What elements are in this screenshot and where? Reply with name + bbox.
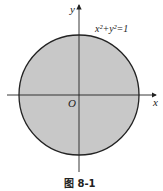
unit-circle-diagram: y x O x²+y²=1 图 8-1 bbox=[0, 0, 163, 191]
y-axis-label: y bbox=[69, 3, 75, 15]
equation-label: x²+y²=1 bbox=[94, 23, 128, 34]
origin-label: O bbox=[68, 97, 76, 109]
figure-caption: 图 8-1 bbox=[64, 178, 96, 189]
x-axis-label: x bbox=[152, 96, 158, 108]
